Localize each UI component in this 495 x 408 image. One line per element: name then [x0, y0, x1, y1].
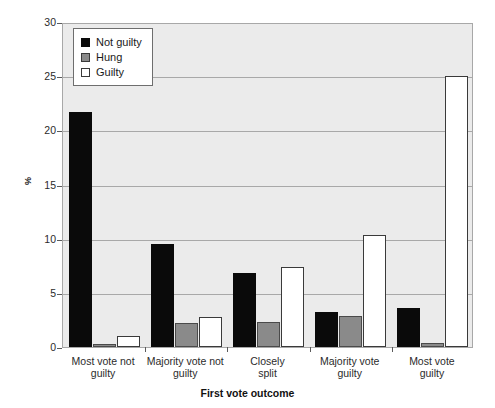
x-tick-label-line: guilty	[309, 367, 391, 379]
x-tick-label: Majority voteguilty	[309, 355, 391, 379]
legend-item[interactable]: Hung	[81, 50, 142, 64]
y-tick-label: 0	[34, 342, 56, 353]
bar-group	[310, 24, 392, 347]
x-tick-label-line: Majority vote not	[144, 355, 226, 367]
y-tick-mark	[57, 77, 62, 78]
legend-item[interactable]: Not guilty	[81, 35, 142, 49]
bar	[257, 322, 280, 347]
bar	[363, 235, 386, 347]
y-tick-label: 25	[34, 71, 56, 82]
x-tick-label-line: Closely	[226, 355, 308, 367]
legend-swatch-icon	[81, 38, 90, 47]
legend-label: Not guilty	[96, 37, 142, 48]
y-tick-label: 15	[34, 180, 56, 191]
bar	[151, 244, 174, 347]
x-tick-label-line: guilty	[144, 367, 226, 379]
bar	[339, 316, 362, 347]
y-tick-label: 5	[34, 288, 56, 299]
bar	[421, 343, 444, 347]
legend-label: Hung	[96, 52, 122, 63]
y-tick-label: 10	[34, 234, 56, 245]
bar	[315, 312, 338, 347]
legend-swatch-icon	[81, 53, 90, 62]
y-tick-mark	[57, 23, 62, 24]
bar	[93, 344, 116, 347]
x-axis-title: First vote outcome	[0, 387, 495, 399]
y-tick-mark	[57, 186, 62, 187]
x-tick-label: Majority vote notguilty	[144, 355, 226, 379]
bar	[117, 336, 140, 347]
bar	[175, 323, 198, 347]
x-tick-mark	[227, 347, 228, 352]
y-tick-label: 20	[34, 125, 56, 136]
bar-group	[227, 24, 309, 347]
bar	[69, 112, 92, 347]
x-tick-label: Most vote notguilty	[62, 355, 144, 379]
bar	[281, 267, 304, 347]
y-tick-mark	[57, 294, 62, 295]
x-tick-mark	[310, 347, 311, 352]
bar-chart: % 051015202530 Not guiltyHungGuilty Most…	[0, 0, 495, 408]
bar	[199, 317, 222, 347]
x-tick-label-line: Most vote not	[62, 355, 144, 367]
bar	[233, 273, 256, 347]
y-tick-mark	[57, 240, 62, 241]
bar	[397, 308, 420, 347]
x-tick-label-line: split	[226, 367, 308, 379]
x-tick-label-line: Majority vote	[309, 355, 391, 367]
x-tick-label-line: guilty	[62, 367, 144, 379]
x-tick-label-line: Most vote	[391, 355, 473, 367]
bar	[445, 76, 468, 347]
y-tick-mark	[57, 131, 62, 132]
y-tick-mark	[57, 348, 62, 349]
x-tick-label: Most voteguilty	[391, 355, 473, 379]
x-tick-mark	[392, 347, 393, 352]
x-tick-label: Closelysplit	[226, 355, 308, 379]
x-tick-label-line: guilty	[391, 367, 473, 379]
bar-group	[145, 24, 227, 347]
bar-group	[392, 24, 474, 347]
legend-label: Guilty	[96, 67, 124, 78]
legend-swatch-icon	[81, 68, 90, 77]
x-tick-mark	[145, 347, 146, 352]
legend-item[interactable]: Guilty	[81, 65, 142, 79]
y-axis-title: %	[23, 169, 33, 193]
y-tick-label: 30	[34, 17, 56, 28]
y-axis-tick-labels: 051015202530	[34, 0, 56, 408]
chart-legend: Not guiltyHungGuilty	[73, 28, 153, 86]
